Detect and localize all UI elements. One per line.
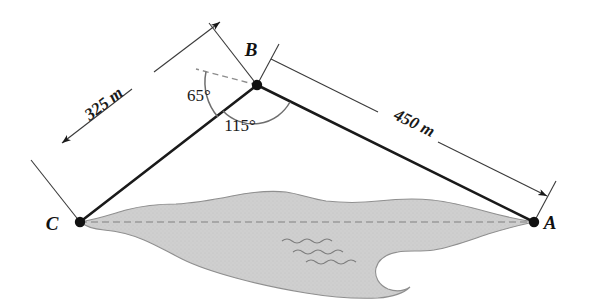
vertex-dot-C (75, 217, 85, 227)
dimension-label-325: 325 m (80, 83, 127, 125)
triangle-lake-diagram: 325 m 450 m C B A 65° 115° (0, 0, 589, 300)
angle-label-65: 65° (187, 86, 211, 105)
angle-label-115: 115° (224, 116, 256, 135)
figure-container: 325 m 450 m C B A 65° 115° (0, 0, 589, 300)
vertex-dot-A (529, 217, 539, 227)
dimension-325: 325 m (31, 22, 257, 222)
vertex-label-A: A (543, 212, 557, 233)
lake-shape (80, 191, 534, 298)
extension-line-B-right (257, 44, 279, 85)
dimension-line-450-left (271, 59, 378, 112)
dimension-label-450: 450 m (390, 105, 438, 141)
vertex-label-B: B (244, 39, 258, 60)
dimension-line-450-right (438, 142, 547, 196)
lake-outline (80, 191, 534, 298)
dimension-line-325-upper (154, 22, 220, 72)
vertex-label-C: C (46, 213, 59, 234)
vertex-dot-B (252, 80, 262, 90)
